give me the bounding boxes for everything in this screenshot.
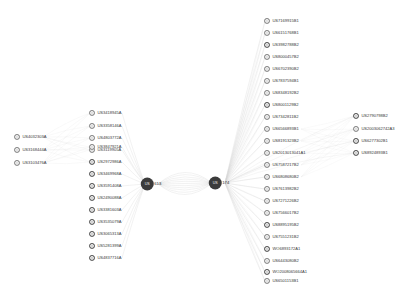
node-marker-icon: [264, 90, 270, 96]
node-marker-icon: [264, 42, 270, 48]
node-label: US6566893B1: [272, 127, 298, 131]
graph-node-far-right[interactable]: US8924893B1: [353, 150, 388, 156]
graph-node-right[interactable]: US7587217B2: [264, 162, 299, 168]
graph-node-right[interactable]: US8348192B2: [264, 90, 299, 96]
graph-node-right[interactable]: US7169915B1: [264, 18, 299, 24]
graph-node-far-right[interactable]: US2790798B2: [353, 113, 388, 119]
node-marker-icon: [353, 150, 359, 156]
graph-node-mid[interactable]: US2972986A: [89, 159, 122, 165]
node-label: US6277302B1: [361, 139, 387, 143]
graph-node-right[interactable]: US2013013041A1: [264, 150, 306, 156]
graph-node-mid[interactable]: US3469968A: [89, 171, 122, 177]
graph-node-right[interactable]: US6702390B2: [264, 66, 299, 72]
node-marker-icon: [264, 246, 270, 252]
node-label: US8001129B2: [272, 103, 298, 107]
graph-node-right[interactable]: US7271226B2: [264, 198, 299, 204]
node-label: US6151768B1: [272, 31, 298, 35]
graph-node-mid[interactable]: US3591408A: [89, 183, 122, 189]
node-label: US6443080B2: [272, 259, 298, 263]
graph-node-right[interactable]: US6808680B2: [264, 174, 299, 180]
node-marker-icon: [89, 123, 95, 129]
node-label: US8191323B2: [272, 139, 298, 143]
node-label: US6808680B2: [272, 175, 298, 179]
node-label: US3469968A: [97, 172, 121, 176]
graph-node-mid[interactable]: US5281399A: [89, 243, 122, 249]
hub-inner-label: US: [145, 182, 150, 186]
hub-circle-icon: US: [209, 177, 222, 190]
node-label: US7837594B1: [272, 79, 298, 83]
node-label: US7587217B2: [272, 163, 298, 167]
node-label: US8000457B2: [272, 55, 298, 59]
node-label: US3982788B2: [272, 43, 298, 47]
graph-node-left[interactable]: US3103476A: [14, 160, 47, 166]
node-label: US7613982B2: [272, 187, 298, 191]
graph-node-right[interactable]: US7342811B2: [264, 114, 298, 120]
hub-inner-label: US: [213, 181, 218, 185]
graph-node-right[interactable]: US6566893B1: [264, 126, 299, 132]
graph-node-right[interactable]: US6443080B2: [264, 258, 299, 264]
graph-hub-node-hub-right[interactable]: US174: [209, 177, 230, 190]
graph-node-right[interactable]: US7613982B2: [264, 186, 299, 192]
node-marker-icon: [14, 160, 20, 166]
node-label: US3847921A: [97, 145, 121, 149]
node-marker-icon: [89, 183, 95, 189]
graph-node-right[interactable]: WO6893172A1: [264, 246, 300, 252]
graph-node-mid[interactable]: US3358146A: [89, 123, 122, 129]
node-marker-icon: [264, 54, 270, 60]
node-marker-icon: [264, 138, 270, 144]
node-marker-icon: [89, 171, 95, 177]
graph-node-mid[interactable]: US3847921A: [89, 144, 122, 150]
node-marker-icon: [89, 231, 95, 237]
graph-node-right[interactable]: WO2008065664A1: [264, 269, 307, 275]
graph-node-right[interactable]: US7551231B2: [264, 234, 299, 240]
node-label: US7342811B2: [272, 115, 298, 119]
node-marker-icon: [89, 159, 95, 165]
node-label: US6702390B2: [272, 67, 298, 71]
node-label: US3535079A: [97, 220, 121, 224]
node-marker-icon: [264, 162, 270, 168]
node-label: US4032303A: [22, 135, 46, 139]
node-marker-icon: [264, 66, 270, 72]
node-marker-icon: [264, 150, 270, 156]
graph-node-right[interactable]: US6151768B1: [264, 30, 299, 36]
graph-node-mid[interactable]: US3065313A: [89, 231, 122, 237]
graph-node-right[interactable]: US6501153B1: [264, 278, 298, 284]
node-label: US8895195B2: [272, 223, 298, 227]
node-marker-icon: [89, 243, 95, 249]
node-label: US8924893B1: [361, 151, 387, 155]
node-marker-icon: [264, 102, 270, 108]
graph-node-mid[interactable]: US3381603A: [89, 207, 122, 213]
graph-node-right[interactable]: US7837594B1: [264, 78, 299, 84]
graph-node-right[interactable]: US8191323B2: [264, 138, 299, 144]
graph-node-mid[interactable]: US4837716A: [89, 255, 122, 261]
graph-node-left[interactable]: US3168444A: [14, 147, 47, 153]
node-marker-icon: [264, 18, 270, 24]
graph-node-far-right[interactable]: US6277302B1: [353, 138, 388, 144]
graph-node-right[interactable]: US8001129B2: [264, 102, 298, 108]
graph-node-left[interactable]: US4032303A: [14, 134, 47, 140]
graph-node-right[interactable]: US7566017B2: [264, 210, 299, 216]
node-marker-icon: [264, 114, 270, 120]
graph-node-mid[interactable]: US4803772A: [89, 135, 122, 141]
node-label: US2790798B2: [361, 114, 387, 118]
graph-hub-node-hub-left[interactable]: US613: [141, 178, 162, 191]
node-marker-icon: [264, 198, 270, 204]
node-label: US3168444A: [22, 148, 46, 152]
node-marker-icon: [264, 258, 270, 264]
node-marker-icon: [264, 186, 270, 192]
node-label: WO2008065664A1: [272, 270, 307, 274]
graph-node-right[interactable]: US8895195B2: [264, 222, 299, 228]
node-label: US3381603A: [97, 208, 121, 212]
graph-node-mid[interactable]: US3535079A: [89, 219, 122, 225]
graph-node-right[interactable]: US3982788B2: [264, 42, 299, 48]
node-label: US3065313A: [97, 232, 121, 236]
node-marker-icon: [264, 30, 270, 36]
graph-node-right[interactable]: US8000457B2: [264, 54, 299, 60]
node-label: US3358146A: [97, 124, 121, 128]
node-label: US7551231B2: [272, 235, 298, 239]
node-label: US2490088A: [97, 196, 121, 200]
graph-node-far-right[interactable]: US2003062742A3: [353, 126, 395, 132]
graph-node-mid[interactable]: US3418945A: [89, 110, 122, 116]
node-label: US8348192B2: [272, 91, 298, 95]
graph-node-mid[interactable]: US2490088A: [89, 195, 122, 201]
